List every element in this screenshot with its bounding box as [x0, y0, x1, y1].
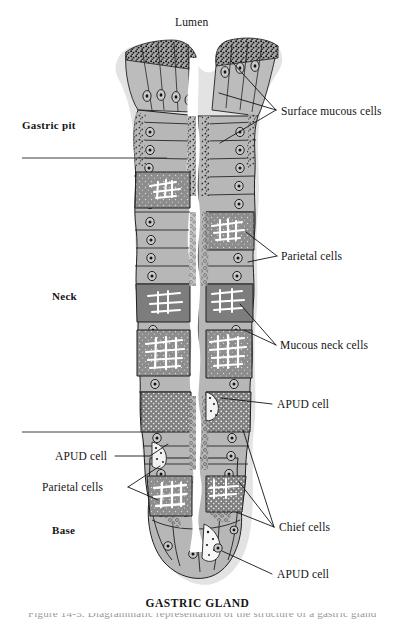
callout-parietal-cells-right: Parietal cells — [281, 250, 342, 262]
figure-title: GASTRIC GLAND — [0, 597, 395, 609]
region-label-neck: Neck — [52, 290, 77, 302]
figure-caption-clipped: Figure 14-5. Diagrammatic representation… — [0, 613, 395, 625]
lumen-label: Lumen — [175, 16, 208, 28]
callout-apud-cell-neck: APUD cell — [277, 398, 329, 410]
region-label-gastric-pit: Gastric pit — [22, 119, 76, 131]
callout-parietal-cells-left: Parietal cells — [42, 481, 103, 493]
region-label-base: Base — [52, 524, 75, 536]
figure-caption-text: Figure 14-5. Diagrammatic representation… — [0, 613, 395, 619]
callout-apud-cell-base: APUD cell — [277, 568, 329, 580]
callout-mucous-neck-cells: Mucous neck cells — [280, 339, 368, 351]
callout-apud-cell-left: APUD cell — [55, 450, 107, 462]
callout-surface-mucous-cells: Surface mucous cells — [281, 105, 382, 117]
gastric-gland-figure: Lumen Gastric pit Neck Base Surface muco… — [0, 0, 395, 625]
callout-chief-cells: Chief cells — [279, 521, 330, 533]
